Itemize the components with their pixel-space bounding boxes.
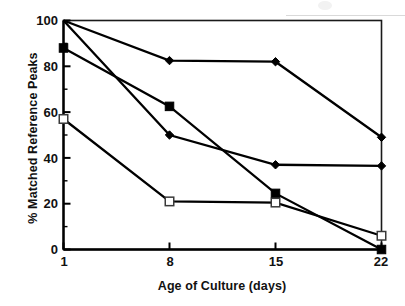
series-4-group bbox=[64, 119, 382, 236]
series-3-group bbox=[64, 48, 382, 250]
data-point-s3-x22 bbox=[377, 245, 386, 254]
axis-frame bbox=[64, 21, 382, 250]
data-point-s2-x22 bbox=[377, 162, 385, 170]
data-point-s4-x8 bbox=[165, 197, 174, 206]
series-2-group bbox=[64, 21, 382, 166]
axis-tick-marks bbox=[64, 21, 382, 250]
data-point-s3-x15 bbox=[271, 189, 280, 198]
data-point-s1-x8 bbox=[165, 56, 173, 64]
plot-area bbox=[0, 0, 405, 306]
data-point-s4-x1 bbox=[59, 115, 68, 124]
series-4-line bbox=[64, 119, 382, 236]
series-2-line bbox=[64, 21, 382, 166]
data-point-s3-x8 bbox=[165, 102, 174, 111]
data-point-s4-x15 bbox=[271, 198, 280, 207]
series-3-line bbox=[64, 48, 382, 250]
series-1-group bbox=[64, 21, 382, 138]
data-point-s3-x1 bbox=[59, 44, 68, 53]
data-point-s4-x22 bbox=[377, 232, 386, 241]
series-1-line bbox=[64, 21, 382, 138]
data-series-layer bbox=[59, 21, 386, 254]
series-2-markers bbox=[165, 131, 385, 170]
data-point-s2-x15 bbox=[271, 161, 279, 169]
chart-figure: % Matched Reference Peaks 100 80 60 40 2… bbox=[0, 0, 405, 306]
